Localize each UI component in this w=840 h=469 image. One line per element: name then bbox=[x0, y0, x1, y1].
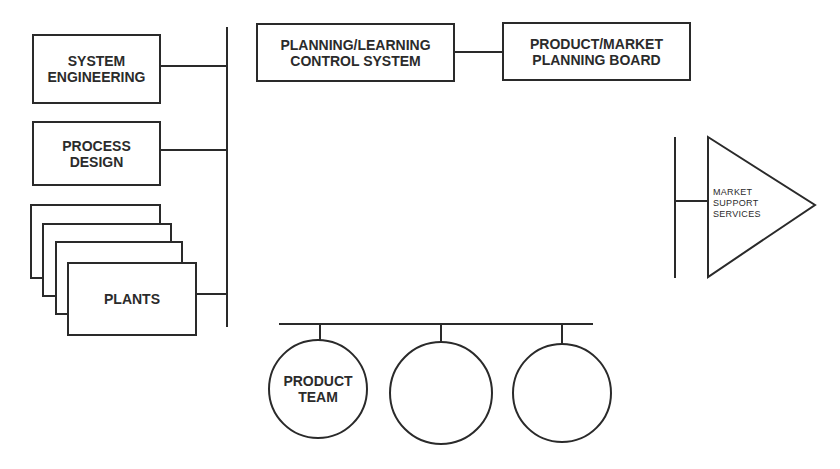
process-design-label: PROCESS DESIGN bbox=[33, 122, 160, 185]
team-circle-2 bbox=[390, 342, 492, 444]
system-engineering-label: SYSTEM ENGINEERING bbox=[33, 35, 160, 103]
team-circle-3 bbox=[513, 344, 611, 442]
market-support-label: MARKET SUPPORT SERVICES bbox=[713, 185, 783, 221]
product-team-label: PRODUCT TEAM bbox=[269, 340, 367, 438]
planning-learning-label: PLANNING/LEARNING CONTROL SYSTEM bbox=[257, 24, 454, 81]
product-market-label: PRODUCT/MARKET PLANNING BOARD bbox=[503, 23, 690, 80]
plants-label: PLANTS bbox=[68, 263, 196, 335]
